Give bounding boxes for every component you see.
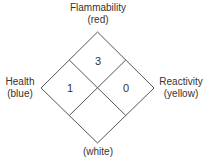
reactivity-name: Reactivity (155, 76, 207, 88)
flammability-color: (red) (58, 14, 138, 26)
health-color: (blue) (0, 88, 40, 100)
reactivity-label: Reactivity (yellow) (155, 76, 207, 100)
flammability-label: Flammability (red) (58, 2, 138, 26)
health-value: 1 (60, 82, 80, 94)
health-name: Health (0, 76, 40, 88)
reactivity-color: (yellow) (155, 88, 207, 100)
flammability-name: Flammability (58, 2, 138, 14)
flammability-value: 3 (88, 55, 108, 67)
reactivity-value: 0 (116, 82, 136, 94)
special-color: (white) (68, 146, 128, 158)
health-label: Health (blue) (0, 76, 40, 100)
special-label: (white) (68, 146, 128, 158)
